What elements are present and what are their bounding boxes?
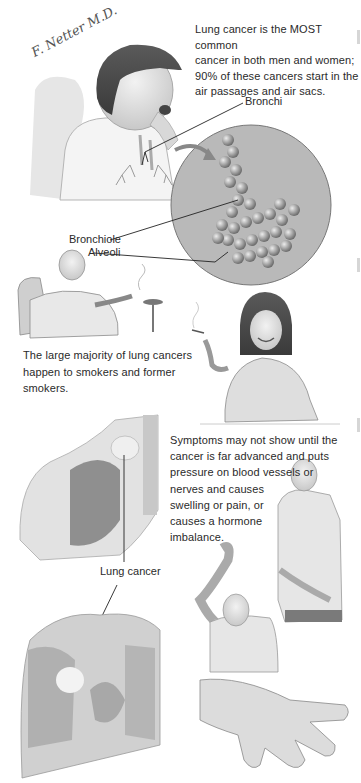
label-bronchi: Bronchi <box>245 95 282 107</box>
chest-cutaway-tumor-illustration <box>21 614 160 778</box>
caption-line: cancer is far advanced and puts <box>170 448 350 464</box>
caption-line: imbalance. <box>170 529 350 545</box>
caption-line: causes a hormone <box>170 513 350 529</box>
label-alveoli: Alveoli <box>88 246 120 258</box>
caption-line: The large majority of lung cancers <box>23 347 193 364</box>
clubbed-fingers-hand-illustration <box>200 679 348 767</box>
section2-caption: The large majority of lung cancers happe… <box>23 347 193 397</box>
caption-line: swelling or pain, or <box>170 497 350 513</box>
caption-line: Lung cancer is the MOST common <box>195 22 361 53</box>
caption-line: smokers. <box>23 380 193 397</box>
caption-line: nerves and causes <box>170 481 350 497</box>
caption-line: pressure on blood vessels or <box>170 464 350 480</box>
section3-caption: Symptoms may not show until the cancer i… <box>170 432 350 545</box>
caption-line: cancer in both men and women; <box>195 53 361 69</box>
woman-coughing-illustration <box>30 45 182 200</box>
shoulder-tumor-cutaway-illustration <box>20 415 158 560</box>
man-smoking-armchair-illustration <box>18 250 163 338</box>
caption-line: Symptoms may not show until the <box>170 432 350 448</box>
label-lung-cancer: Lung cancer <box>100 565 161 577</box>
woman-smoking-illustration <box>192 292 340 424</box>
label-bronchiole: Bronchiole <box>69 233 121 245</box>
man-raising-arm-illustration <box>200 547 280 681</box>
section1-caption: Lung cancer is the MOST common cancer in… <box>195 22 361 100</box>
alveoli-magnified-circle <box>171 125 331 285</box>
caption-line: happen to smokers and former <box>23 364 193 381</box>
page-edge-mark <box>357 30 360 44</box>
caption-line: 90% of these cancers start in the <box>195 69 361 85</box>
page-edge-mark <box>357 418 360 432</box>
page-edge-mark <box>357 258 360 272</box>
